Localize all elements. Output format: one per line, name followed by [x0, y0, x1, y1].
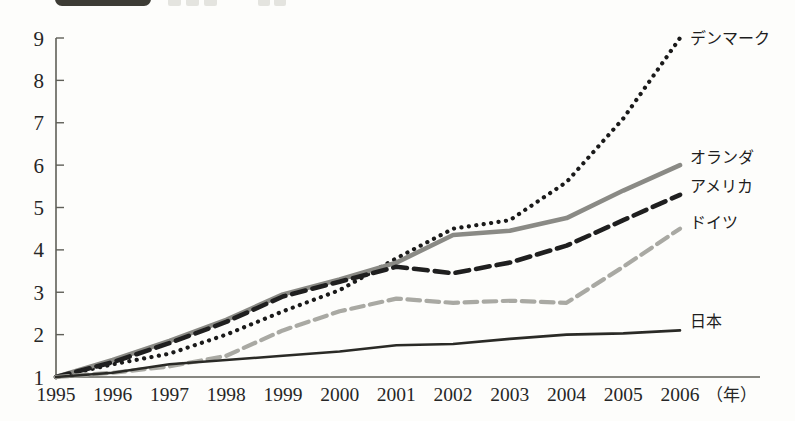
line-chart-plot: 123456789 199519961997199819992000200120…: [0, 0, 795, 421]
y-tick-label: 5: [34, 196, 45, 220]
series-line-japan: [56, 330, 680, 377]
series-label-japan: 日本: [690, 312, 722, 331]
y-tick-label: 8: [34, 69, 45, 93]
series-label-america: アメリカ: [690, 177, 753, 196]
series-label-denmark: デンマーク: [690, 29, 770, 48]
y-tick-label: 4: [34, 238, 45, 262]
x-tick-label: 2003: [490, 384, 529, 405]
y-tick-label: 3: [34, 281, 45, 305]
x-tick-label: 1997: [150, 384, 189, 405]
x-tick-label: 2002: [434, 384, 473, 405]
x-tick-label: 2000: [320, 384, 359, 405]
series-end-labels: デンマークオランダアメリカドイツ日本: [690, 29, 770, 331]
y-tick-label: 7: [34, 111, 45, 135]
y-tick-label: 9: [34, 27, 45, 51]
x-tick-label: 1999: [263, 384, 302, 405]
x-tick-label: 2005: [604, 384, 643, 405]
x-tick-label: 2004: [547, 384, 586, 405]
y-tick-label: 2: [34, 323, 45, 347]
series-label-netherlands: オランダ: [690, 148, 754, 167]
series-line-germany: [56, 229, 680, 377]
x-tick-label: 1995: [37, 384, 76, 405]
y-tick-label: 6: [34, 154, 45, 178]
x-tick-label: 1996: [93, 384, 132, 405]
x-tick-label: 2001: [377, 384, 416, 405]
series-label-germany: ドイツ: [690, 213, 738, 232]
x-axis: 1995199619971998199920002001200220032004…: [37, 377, 761, 405]
x-tick-label: 1998: [207, 384, 246, 405]
y-axis: 123456789: [34, 27, 65, 390]
series-lines: [56, 38, 680, 377]
series-line-netherlands: [56, 165, 680, 377]
x-axis-unit: （年）: [706, 386, 757, 405]
x-tick-label: 2006: [661, 384, 700, 405]
chart-container: 123456789 199519961997199819992000200120…: [0, 0, 795, 421]
